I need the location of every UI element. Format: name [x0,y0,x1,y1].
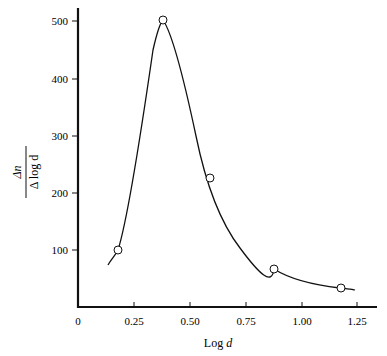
y-tick-label: 200 [52,187,69,199]
x-axis-label: Log d [204,336,233,350]
chart: 100 200 300 400 500 0 0.25 0.50 0.75 1.0… [0,0,387,356]
x-tick-label: 0 [75,315,81,327]
data-point [337,284,345,292]
data-point [159,16,167,24]
y-tick-label: 100 [52,244,69,256]
data-point [206,174,214,182]
y-tick-label: 500 [52,15,69,27]
y-tick-label: 400 [52,73,69,85]
data-point [270,265,278,273]
y-ticks: 100 200 300 400 500 [52,15,79,256]
x-tick-label: 0.50 [180,315,200,327]
y-axis-label: Δn Δ log d [10,146,41,198]
x-tick-label: 0.25 [124,315,144,327]
data-markers [114,16,345,292]
x-tick-label: 1.25 [347,315,367,327]
data-curve [108,20,355,290]
x-ticks: 0 0.25 0.50 0.75 1.00 1.25 [75,302,367,327]
y-tick-label: 300 [52,130,69,142]
data-point [114,246,122,254]
x-tick-label: 1.00 [292,315,312,327]
svg-text:Δn: Δn [10,165,24,179]
svg-text:Δ log d: Δ log d [27,155,41,189]
x-tick-label: 0.75 [236,315,256,327]
